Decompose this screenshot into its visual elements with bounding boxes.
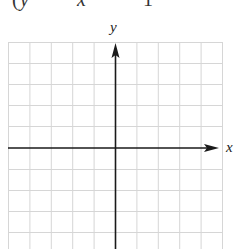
coordinate-grid xyxy=(0,0,234,249)
y-axis-label: y xyxy=(110,20,117,35)
axes xyxy=(8,43,219,249)
x-axis-label: x xyxy=(226,140,233,155)
